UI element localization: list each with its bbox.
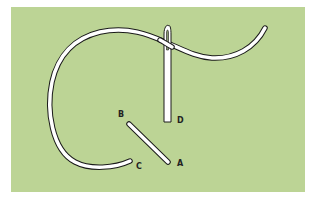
stitch-b-a — [129, 124, 168, 162]
label-b: B — [118, 111, 124, 119]
thread — [50, 28, 265, 167]
stitch-illustration — [0, 0, 314, 202]
label-c: C — [136, 163, 142, 171]
label-a: A — [177, 160, 183, 168]
label-d: D — [177, 117, 184, 125]
